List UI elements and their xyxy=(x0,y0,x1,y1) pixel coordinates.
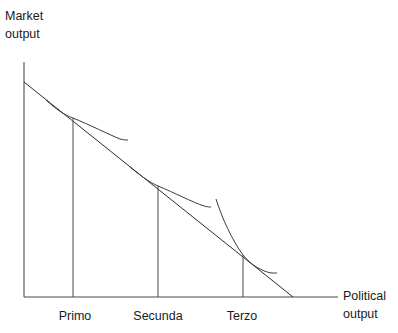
tick-label-secunda: Secunda xyxy=(133,309,182,323)
tick-labels-group: Primo Secunda Terzo xyxy=(59,309,258,323)
economics-tradeoff-diagram: Market output Political output Primo Sec… xyxy=(0,0,398,333)
y-axis-label-line2: output xyxy=(5,27,40,41)
x-axis-label-line2: output xyxy=(343,307,378,321)
axes-group xyxy=(24,62,338,297)
droplines-group xyxy=(73,118,243,297)
indifference-curves-group xyxy=(46,100,277,273)
x-axis-label-line1: Political xyxy=(343,289,386,303)
indifference-curve-secunda xyxy=(130,167,211,207)
tick-label-terzo: Terzo xyxy=(227,309,258,323)
plot-canvas: Market output Political output Primo Sec… xyxy=(0,0,398,333)
indifference-curve-primo xyxy=(46,100,128,140)
axis-titles-group: Market output Political output xyxy=(5,9,386,321)
indifference-curve-terzo xyxy=(216,199,277,273)
tick-label-primo: Primo xyxy=(59,309,92,323)
y-axis-label-line1: Market xyxy=(5,9,44,23)
